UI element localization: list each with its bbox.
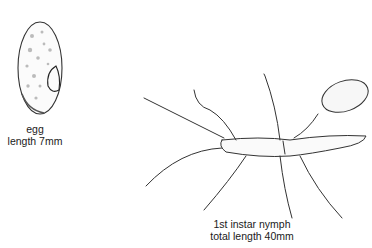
nymph-length: total length 40mm: [196, 230, 308, 242]
egg-length: length 7mm: [0, 135, 70, 147]
nymph-label: 1st instar nymph: [196, 218, 308, 230]
nymph-caption: 1st instar nymph total length 40mm: [196, 218, 308, 242]
egg-illustration: [14, 14, 70, 122]
nymph-illustration: [140, 40, 372, 220]
egg-caption: egg length 7mm: [0, 123, 70, 147]
egg-label: egg: [0, 123, 70, 135]
